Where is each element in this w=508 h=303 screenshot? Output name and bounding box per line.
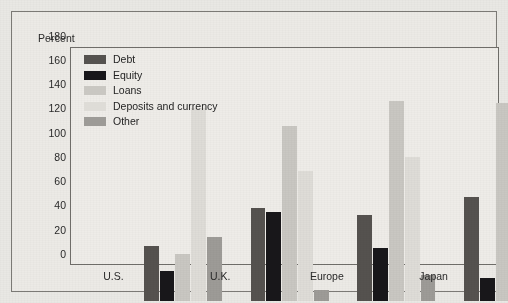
legend-item: Deposits and currency: [84, 101, 217, 112]
legend-swatch: [84, 102, 106, 111]
legend-swatch: [84, 71, 106, 80]
bar: [314, 290, 329, 301]
x-axis-label: Europe: [274, 270, 381, 282]
legend-swatch: [84, 117, 106, 126]
x-axis-label: U.S.: [60, 270, 167, 282]
legend-swatch: [84, 55, 106, 64]
x-axis-label: U.K.: [167, 270, 274, 282]
bar: [266, 212, 281, 301]
bar: [207, 237, 222, 301]
y-axis-tick-label: 160: [48, 54, 70, 65]
bar-group: [251, 84, 330, 301]
y-axis-tick-label: 140: [48, 79, 70, 90]
bar-group: [464, 84, 508, 301]
y-axis-tick-label: 0: [60, 248, 70, 259]
bar: [496, 103, 508, 301]
y-axis-tick-label: 40: [54, 200, 70, 211]
bar: [357, 215, 372, 301]
bar: [251, 208, 266, 301]
legend-label: Deposits and currency: [113, 101, 217, 112]
legend-label: Debt: [113, 54, 135, 65]
legend-item: Debt: [84, 54, 217, 65]
legend-label: Loans: [113, 85, 142, 96]
legend-label: Equity: [113, 70, 142, 81]
chart-legend: DebtEquityLoansDeposits and currencyOthe…: [84, 54, 217, 127]
chart-outer-frame: Percent 180160140120100806040200 U.S.U.K…: [11, 11, 497, 292]
y-axis-tick-label: 80: [54, 151, 70, 162]
legend-item: Other: [84, 116, 217, 127]
y-axis-tick-label: 180: [48, 30, 70, 41]
bar-group: [357, 84, 436, 301]
y-axis-tick-label: 20: [54, 224, 70, 235]
x-axis-label: Japan: [380, 270, 487, 282]
y-axis-tick-label: 120: [48, 103, 70, 114]
legend-swatch: [84, 86, 106, 95]
legend-label: Other: [113, 116, 139, 127]
y-axis-tick-label: 60: [54, 176, 70, 187]
chart-page: Percent 180160140120100806040200 U.S.U.K…: [0, 0, 508, 303]
legend-item: Loans: [84, 85, 217, 96]
legend-item: Equity: [84, 70, 217, 81]
y-axis-tick-label: 100: [48, 127, 70, 138]
bar: [464, 197, 479, 301]
